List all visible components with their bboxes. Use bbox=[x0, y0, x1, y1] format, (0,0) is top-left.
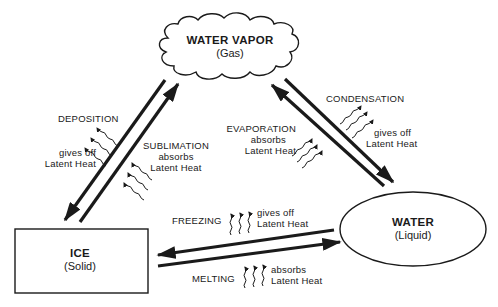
ice-title: ICE bbox=[30, 247, 130, 260]
deposition-heat-label: gives off Latent Heat bbox=[38, 147, 96, 169]
ice-node: ICE (Solid) bbox=[30, 247, 130, 273]
water-node: WATER (Liquid) bbox=[363, 216, 463, 242]
melting-label: MELTING bbox=[192, 273, 235, 284]
evaporation-name: EVAPORATION bbox=[220, 123, 296, 134]
melting-heat-line2: Latent Heat bbox=[271, 275, 322, 286]
freezing-heat-line1: gives off bbox=[257, 207, 308, 218]
ice-state: (Solid) bbox=[30, 260, 130, 273]
evaporation-heat-squiggles bbox=[292, 139, 322, 168]
condensation-heat-line1: gives off bbox=[366, 127, 417, 138]
water-vapor-title: WATER VAPOR bbox=[170, 34, 290, 47]
condensation-label: CONDENSATION bbox=[326, 93, 404, 104]
deposition-label: DEPOSITION bbox=[58, 113, 119, 124]
deposition-heat-line1: gives off bbox=[38, 147, 96, 158]
condensation-heat-line2: Latent Heat bbox=[366, 138, 417, 149]
water-state: (Liquid) bbox=[363, 229, 463, 242]
sublimation-name: SUBLIMATION bbox=[140, 140, 212, 151]
freezing-arrow bbox=[158, 230, 334, 255]
freezing-heat-squiggles bbox=[230, 212, 250, 235]
melting-heat-label: absorbs Latent Heat bbox=[271, 264, 322, 286]
sublimation-label: SUBLIMATION absorbs Latent Heat bbox=[140, 140, 212, 173]
freezing-heat-label: gives off Latent Heat bbox=[257, 207, 308, 229]
evaporation-heat-line2: Latent Heat bbox=[220, 145, 296, 156]
sublimation-heat-line1: absorbs bbox=[140, 151, 212, 162]
melting-heat-squiggles bbox=[244, 265, 264, 288]
freezing-heat-line2: Latent Heat bbox=[257, 218, 308, 229]
condensation-heat-label: gives off Latent Heat bbox=[366, 127, 417, 149]
deposition-heat-line2: Latent Heat bbox=[38, 158, 96, 169]
water-vapor-state: (Gas) bbox=[170, 47, 290, 60]
sublimation-heat-line2: Latent Heat bbox=[140, 162, 212, 173]
water-title: WATER bbox=[363, 216, 463, 229]
freezing-label: FREEZING bbox=[172, 215, 222, 226]
evaporation-label: EVAPORATION absorbs Latent Heat bbox=[220, 123, 296, 156]
evaporation-heat-line1: absorbs bbox=[220, 134, 296, 145]
melting-arrow bbox=[158, 242, 340, 266]
melting-heat-line1: absorbs bbox=[271, 264, 322, 275]
water-vapor-node: WATER VAPOR (Gas) bbox=[170, 34, 290, 60]
